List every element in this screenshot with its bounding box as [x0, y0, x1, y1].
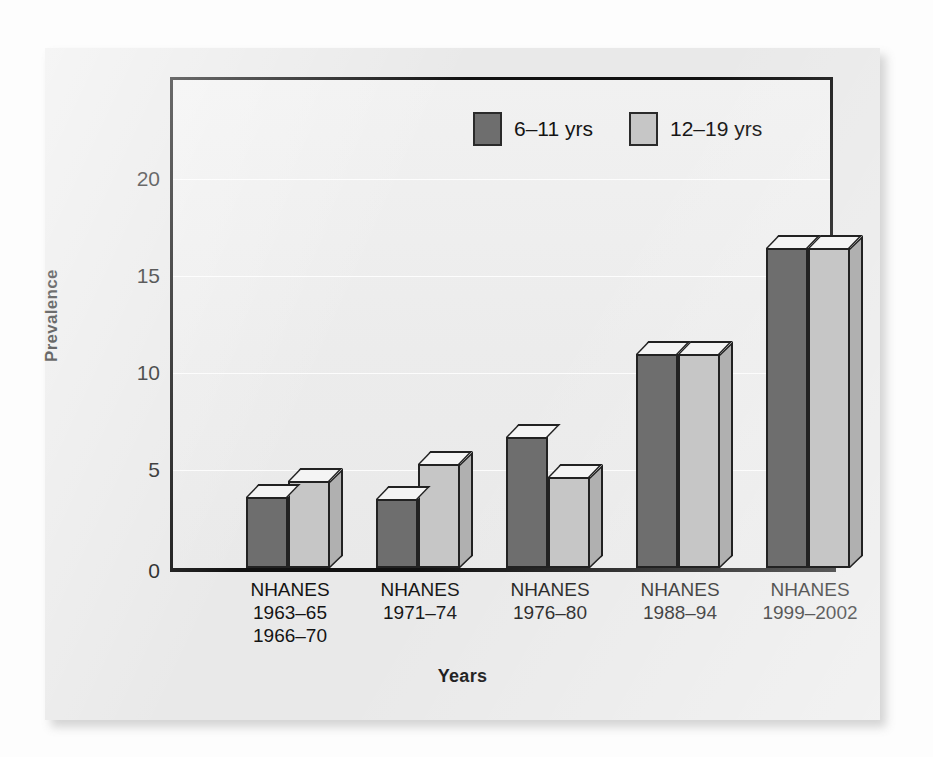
bar-4-6-11 — [636, 354, 678, 568]
y-tick-10: 10 — [137, 361, 160, 385]
bar-front-face — [548, 477, 590, 568]
bar-side-face — [850, 236, 863, 568]
legend: 6–11 yrs 12–19 yrs — [473, 112, 762, 146]
bar-front-face — [678, 354, 720, 568]
gridline-20 — [173, 179, 830, 180]
x-tick-label-2: NHANES 1971–74 — [355, 578, 485, 624]
y-axis: Prevalence 20 15 10 5 0 — [45, 77, 160, 572]
bar-front-face — [636, 354, 678, 568]
y-tick-0: 0 — [148, 559, 160, 583]
bar-side-face — [330, 468, 343, 568]
bar-front-face — [288, 481, 330, 568]
bar-side-face — [460, 452, 473, 568]
x-axis-title: Years — [45, 666, 880, 687]
y-axis-title: Prevalence — [42, 269, 62, 362]
bar-front-face — [418, 464, 460, 568]
bar-1-6-11 — [246, 497, 288, 568]
y-tick-15: 15 — [137, 264, 160, 288]
bar-front-face — [808, 248, 850, 568]
bar-3-12-19 — [548, 477, 590, 568]
bar-side-face — [720, 342, 733, 568]
figure-card: Prevalence 20 15 10 5 0 6–11 yrs 1 — [45, 48, 880, 720]
bar-2-12-19 — [418, 464, 460, 568]
bar-5-6-11 — [766, 248, 808, 568]
bar-3-6-11 — [506, 437, 548, 568]
bar-1-12-19 — [288, 481, 330, 568]
bar-2-6-11 — [376, 499, 418, 568]
x-tick-label-5: NHANES 1999–2002 — [745, 578, 875, 624]
y-tick-5: 5 — [148, 458, 160, 482]
x-tick-label-4: NHANES 1988–94 — [615, 578, 745, 624]
bar-4-12-19 — [678, 354, 720, 568]
x-tick-label-3: NHANES 1976–80 — [485, 578, 615, 624]
bar-front-face — [766, 248, 808, 568]
gridline-15 — [173, 276, 830, 277]
legend-item-6-11[interactable]: 6–11 yrs — [473, 112, 593, 146]
bar-side-face — [590, 464, 603, 568]
plot-area: 6–11 yrs 12–19 yrs — [170, 77, 833, 572]
legend-item-12-19[interactable]: 12–19 yrs — [629, 112, 762, 146]
x-tick-label-1: NHANES 1963–65 1966–70 — [225, 578, 355, 647]
bar-front-face — [376, 499, 418, 568]
legend-label-12-19: 12–19 yrs — [670, 117, 762, 141]
legend-swatch-12-19 — [629, 112, 658, 146]
bar-front-face — [506, 437, 548, 568]
legend-swatch-6-11 — [473, 112, 502, 146]
zero-baseline — [173, 568, 836, 572]
bar-5-12-19 — [808, 248, 850, 568]
legend-label-6-11: 6–11 yrs — [514, 117, 593, 141]
bar-front-face — [246, 497, 288, 568]
y-tick-20: 20 — [137, 167, 160, 191]
screenshot-root: Prevalence 20 15 10 5 0 6–11 yrs 1 — [0, 0, 933, 757]
